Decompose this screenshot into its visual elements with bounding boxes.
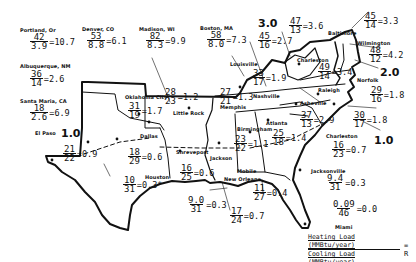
heating-value: 37 bbox=[300, 111, 313, 119]
ratio-charleston-region: 4914=3.4 bbox=[318, 63, 352, 80]
cooling-value: 8.8 bbox=[87, 40, 105, 49]
ratio-raleigh: 3017=1.8 bbox=[353, 111, 387, 128]
ratio-value: =0.3 bbox=[206, 201, 226, 209]
cooling-value: 3.9 bbox=[30, 41, 48, 50]
city-label-el-paso: El Paso bbox=[35, 130, 56, 136]
ratio-value: =0.6 bbox=[194, 169, 214, 177]
cooling-value: 8.3 bbox=[146, 40, 164, 49]
ratio-santa-maria: 182.6=6.9 bbox=[30, 104, 70, 121]
ratio-value: =0.7 bbox=[346, 146, 366, 154]
heating-value: 45 bbox=[258, 32, 271, 40]
heating-value: 42 bbox=[33, 33, 46, 41]
cooling-value: 23 bbox=[332, 149, 345, 158]
ratio-value: =0.9 bbox=[77, 150, 97, 158]
heating-value: 31 bbox=[128, 102, 141, 110]
ratio-charleston-wv: 4713=3.6 bbox=[289, 17, 323, 34]
ratio-nashville: 3317=1.9 bbox=[252, 69, 286, 86]
ratio-value: =3.4 bbox=[332, 68, 352, 76]
cooling-value: 2.6 bbox=[30, 112, 48, 121]
heating-value: 29 bbox=[370, 86, 383, 94]
cooling-value: 8.0 bbox=[207, 39, 225, 48]
heating-value: 18 bbox=[33, 104, 46, 112]
ratio-birmingham: 2322=1.1 bbox=[234, 135, 268, 152]
ratio-oklahoma-city: 3119=1.7 bbox=[128, 102, 162, 119]
ratio-little-rock: 2823=1.2 bbox=[164, 88, 198, 105]
ratio-jacksonville: 9.431=0.3 bbox=[326, 174, 366, 191]
ratio-value: =0.3 bbox=[345, 179, 365, 187]
city-label-louisville: Louisville bbox=[230, 61, 258, 67]
heating-value: 0.09 bbox=[332, 200, 356, 208]
ratio-new-orleans: 1724=0.7 bbox=[230, 207, 264, 224]
ratio-wilmington: 4812=4.2 bbox=[369, 46, 403, 63]
ratio-denver: 538.8=6.1 bbox=[87, 32, 127, 49]
ratio-dallas: 1829=0.6 bbox=[128, 148, 162, 165]
city-label-new-orleans: New Orleans bbox=[224, 176, 261, 182]
isoline-label-1-0-west: 1.0 bbox=[61, 127, 81, 140]
ratio-value: =3.3 bbox=[378, 17, 398, 25]
ratio-value: =1.2 bbox=[178, 93, 198, 101]
ratio-portland: 423.9=10.7 bbox=[30, 33, 75, 50]
city-label-oklahoma-city: Oklahoma City bbox=[125, 94, 167, 100]
city-label-atlanta: Atlanta bbox=[266, 120, 287, 126]
cooling-value: 46 bbox=[337, 208, 350, 217]
heating-value: 16 bbox=[332, 141, 345, 149]
formula-legend: Heating Load (MMBtu/year) Cooling Load (… bbox=[308, 233, 416, 262]
cooling-value: 18 bbox=[272, 137, 285, 146]
ratio-value: =0.6 bbox=[142, 153, 162, 161]
city-label-dallas: Dallas bbox=[140, 133, 158, 139]
ratio-charleston-sc: 1623=0.7 bbox=[332, 141, 366, 158]
city-label-albuquerque: Albuquerque, NM bbox=[20, 63, 71, 69]
ratio-norfolk: 2916=1.8 bbox=[370, 86, 404, 103]
ratio-albuquerque: 3614=2.6 bbox=[30, 70, 64, 87]
ratio-baltimore: 4514=3.3 bbox=[364, 12, 398, 29]
legend-denominator: Cooling Load (MMBtu/year) bbox=[308, 249, 400, 262]
city-label-shreveport: Shreveport bbox=[176, 149, 209, 155]
city-label-miami: Miami bbox=[335, 224, 353, 230]
city-label-baltimore: Baltimore bbox=[328, 30, 356, 36]
heating-value: 48 bbox=[369, 46, 382, 54]
ratio-value: =1.7 bbox=[142, 107, 162, 115]
heating-value: 18 bbox=[128, 148, 141, 156]
ratio-value: =0.4 bbox=[267, 189, 287, 197]
ratio-boston: 588.0=7.3 bbox=[207, 31, 247, 48]
ratio-value: =9.9 bbox=[165, 37, 185, 45]
heating-value: 36 bbox=[30, 70, 43, 78]
ratio-value: =4.2 bbox=[383, 51, 403, 59]
ratio-value: =2.9 bbox=[314, 116, 334, 124]
legend-numerator: Heating Load (MMBtu/year) bbox=[308, 233, 400, 249]
heating-value: 28 bbox=[164, 88, 177, 96]
heating-value: 33 bbox=[252, 69, 265, 77]
heating-value: 10 bbox=[123, 176, 136, 184]
cooling-value: 22 bbox=[63, 153, 76, 162]
heating-value: 45 bbox=[364, 12, 377, 20]
cooling-value: 25 bbox=[180, 172, 193, 181]
heating-value: 53 bbox=[90, 32, 103, 40]
ratio-value: =0.0 bbox=[357, 205, 377, 213]
ratio-value: =1.3 bbox=[233, 93, 253, 101]
heating-value: 11 bbox=[253, 184, 266, 192]
cooling-value: 29 bbox=[128, 156, 141, 165]
cooling-value: 31 bbox=[329, 182, 342, 191]
heating-value: 49 bbox=[318, 63, 331, 71]
ratio-value: =6.9 bbox=[49, 109, 69, 117]
city-label-mobile: Mobile bbox=[237, 168, 256, 174]
city-label-jackson: Jackson bbox=[210, 155, 232, 161]
cooling-value: 13 bbox=[289, 25, 302, 34]
cooling-value: 16 bbox=[370, 94, 383, 103]
city-label-nashville: Nashville bbox=[253, 93, 280, 99]
isoline-label-1-0-east: 1.0 bbox=[374, 134, 394, 147]
cooling-value: 16 bbox=[258, 40, 271, 49]
cooling-value: 14 bbox=[364, 20, 377, 29]
heating-value: 9.0 bbox=[187, 196, 205, 204]
heating-value: 47 bbox=[289, 17, 302, 25]
cooling-value: 22 bbox=[234, 143, 247, 152]
cooling-value: 14 bbox=[30, 78, 43, 87]
cooling-value: 14 bbox=[318, 71, 331, 80]
cooling-value: 17 bbox=[252, 77, 265, 86]
heating-value: 9.4 bbox=[326, 174, 344, 182]
cooling-value: 12 bbox=[369, 54, 382, 63]
ratio-louisville: 4516=2.7 bbox=[258, 32, 292, 49]
ratio-value: =1.8 bbox=[384, 91, 404, 99]
city-label-norfolk: Norfolk bbox=[357, 77, 378, 83]
ratio-value: =1.9 bbox=[266, 74, 286, 82]
